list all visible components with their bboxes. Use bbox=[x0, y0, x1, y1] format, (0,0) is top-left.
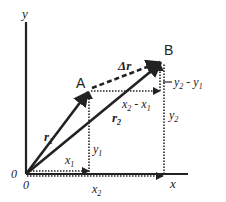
point-b-label: B bbox=[164, 42, 173, 58]
r2-label: r2 bbox=[112, 110, 121, 127]
y1-label: y1 bbox=[92, 142, 102, 158]
y-axis-label: y bbox=[20, 6, 28, 21]
origin-label-x: 0 bbox=[23, 178, 29, 192]
x1-label: x1 bbox=[64, 153, 74, 169]
x-axis-label: x bbox=[169, 176, 176, 191]
r1-vector bbox=[26, 92, 88, 174]
r2-vector bbox=[26, 63, 161, 174]
r1-label: r1 bbox=[44, 129, 53, 146]
dx-label: x2 - x1 bbox=[121, 97, 151, 113]
dy-label: y2 - y1 bbox=[173, 75, 203, 91]
y2-label: y2 bbox=[168, 108, 178, 124]
x2-label: x2 bbox=[91, 182, 101, 198]
delta-r-label: Δr bbox=[117, 58, 132, 73]
point-a-label: A bbox=[76, 75, 86, 91]
origin-label-y: 0 bbox=[11, 167, 17, 181]
displacement-diagram: y x 0 0 A B Δr r1 r2 x1 x2 y1 y2 x2 - x1… bbox=[0, 0, 226, 202]
